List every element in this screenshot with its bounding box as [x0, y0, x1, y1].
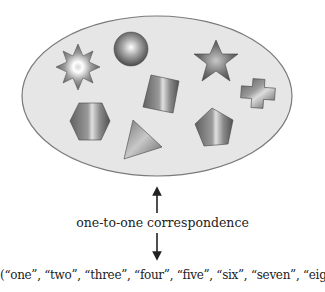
diagram-canvas [0, 0, 325, 292]
correspondence-label: one-to-one correspondence [0, 215, 325, 230]
number-words-tuple: (“one”, “two”, “three”, “four”, “five”, … [0, 268, 325, 282]
sphere-icon [114, 32, 148, 66]
